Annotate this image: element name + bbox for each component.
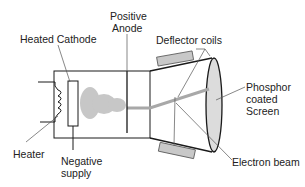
- heated-cathode: [68, 81, 78, 126]
- label-heated-cathode: Heated Cathode: [20, 33, 96, 45]
- label-negative-supply-1: Negative: [61, 155, 102, 167]
- label-phosphor-3: Screen: [246, 105, 279, 117]
- electron-beam: [127, 89, 209, 108]
- label-positive-anode-2: Anode: [112, 22, 142, 34]
- label-negative-supply-2: supply: [61, 167, 91, 179]
- deflector-coil-top: [157, 51, 194, 66]
- label-phosphor-1: Phosphor: [246, 81, 291, 93]
- phosphor-screen: [206, 58, 222, 152]
- label-positive-anode-1: Positive: [110, 10, 147, 22]
- label-phosphor-2: coated: [246, 93, 278, 105]
- label-heater: Heater: [13, 148, 45, 160]
- label-deflector-coils: Deflector coils: [156, 34, 222, 46]
- electron-cloud: [80, 87, 126, 119]
- deflector-coil-bottom: [158, 142, 195, 158]
- label-electron-beam: Electron beam: [232, 156, 300, 168]
